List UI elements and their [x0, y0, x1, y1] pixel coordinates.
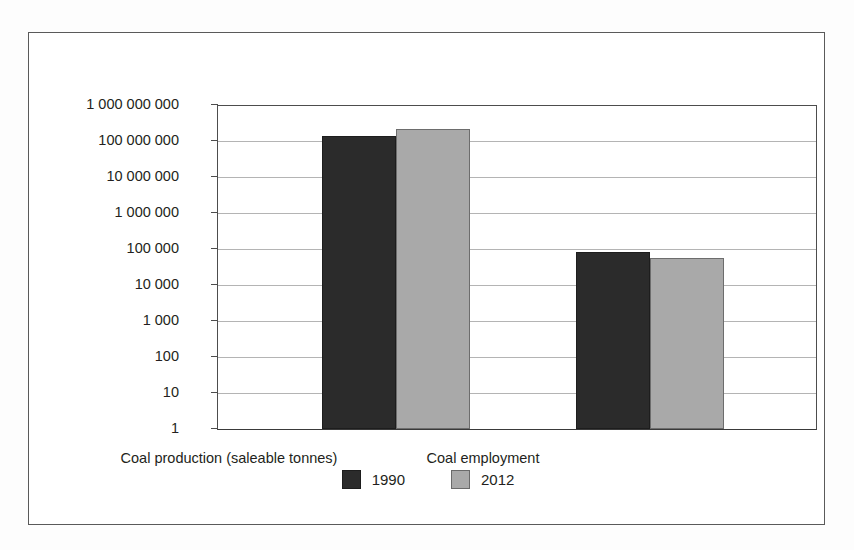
y-axis-label-100000000: 100 000 000: [98, 133, 179, 148]
y-axis-label-10000000: 10 000 000: [106, 169, 179, 184]
chart-figure: 1 000 000 000 100 000 000 10 000 000 1 0…: [0, 0, 854, 550]
gridline-100000: [218, 249, 816, 250]
chart-outer-frame: 1 000 000 000 100 000 000 10 000 000 1 0…: [28, 32, 825, 525]
legend-item-1990: 1990: [342, 470, 405, 489]
gridline-1000: [218, 321, 816, 322]
gridline-100000000: [218, 141, 816, 142]
y-axis-label-1: 1: [171, 421, 179, 436]
tick-mark-10000: [211, 284, 218, 285]
y-axis-label-100: 100: [155, 349, 179, 364]
gridline-10: [218, 393, 816, 394]
legend-item-2012: 2012: [451, 470, 514, 489]
chart-legend: 1990 2012: [1, 470, 854, 489]
tick-mark-100000000: [211, 140, 218, 141]
legend-label-2012: 2012: [481, 472, 514, 487]
tick-mark-10: [211, 392, 218, 393]
y-axis-label-1000000000: 1 000 000 000: [86, 97, 179, 112]
x-axis-category-label-coal-production: Coal production (saleable tonnes): [94, 451, 364, 466]
bar-coal-employment-1990: [576, 252, 650, 429]
tick-mark-10000000: [211, 176, 218, 177]
tick-mark-100: [211, 356, 218, 357]
gridline-10000: [218, 285, 816, 286]
tick-mark-1000000000: [211, 104, 218, 105]
tick-mark-1000000: [211, 212, 218, 213]
y-axis-label-100000: 100 000: [127, 241, 179, 256]
gridline-100: [218, 357, 816, 358]
y-axis-label-10: 10: [163, 385, 179, 400]
bar-coal-production-1990: [322, 136, 396, 429]
gridline-1000000: [218, 213, 816, 214]
tick-mark-1: [211, 428, 218, 429]
y-axis-label-1000: 1 000: [143, 313, 179, 328]
legend-label-1990: 1990: [372, 472, 405, 487]
y-axis-label-10000: 10 000: [135, 277, 179, 292]
tick-mark-1000: [211, 320, 218, 321]
bar-coal-employment-2012: [650, 258, 724, 429]
legend-swatch-2012-icon: [451, 470, 470, 489]
x-axis-category-label-coal-employment: Coal employment: [373, 451, 593, 466]
bar-coal-production-2012: [396, 129, 470, 429]
tick-mark-100000: [211, 248, 218, 249]
plot-area: [217, 105, 817, 430]
legend-swatch-1990-icon: [342, 470, 361, 489]
y-axis-label-1000000: 1 000 000: [114, 205, 179, 220]
gridline-10000000: [218, 177, 816, 178]
